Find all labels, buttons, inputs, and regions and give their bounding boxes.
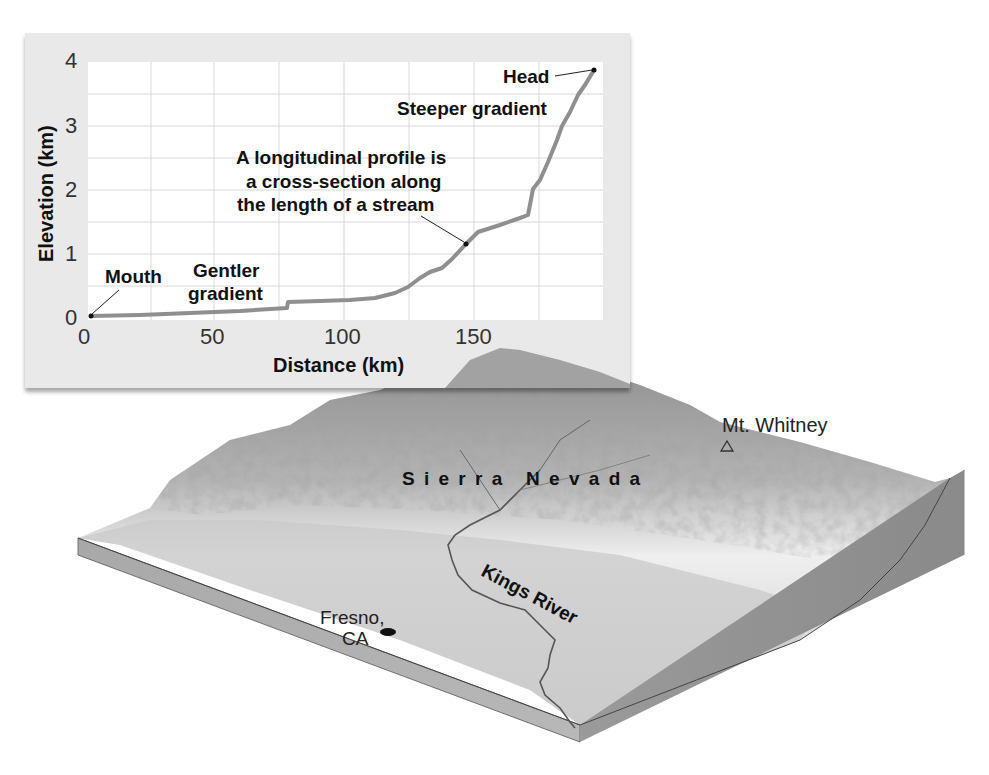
profile-point bbox=[464, 242, 469, 247]
x-tick-100: 100 bbox=[324, 324, 361, 349]
fresno-label-line1: Fresno, bbox=[320, 607, 384, 628]
x-tick-150: 150 bbox=[455, 324, 492, 349]
gentler-gradient-line1: Gentler bbox=[193, 260, 260, 281]
figure: Mt. Whitney S i e r r a N e v a d a King… bbox=[0, 0, 989, 775]
x-axis-label: Distance (km) bbox=[273, 354, 404, 376]
x-tick-50: 50 bbox=[200, 324, 224, 349]
mouth-label: Mouth bbox=[105, 266, 162, 287]
profile-chart: 4 3 2 1 0 0 50 100 150 Distance (km) Ele… bbox=[0, 0, 640, 400]
y-tick-4: 4 bbox=[65, 48, 77, 73]
mouth-point bbox=[89, 314, 94, 319]
mt-whitney-label: Mt. Whitney bbox=[722, 414, 828, 436]
gentler-gradient-line2: gradient bbox=[188, 283, 264, 304]
y-axis-label: Elevation (km) bbox=[35, 125, 57, 262]
sierra-nevada-label: S i e r r a N e v a d a bbox=[402, 468, 642, 489]
steeper-gradient-label: Steeper gradient bbox=[397, 98, 548, 119]
y-tick-0: 0 bbox=[65, 305, 77, 330]
head-point bbox=[592, 68, 597, 73]
y-tick-1: 1 bbox=[65, 241, 77, 266]
fresno-marker bbox=[380, 628, 396, 636]
y-tick-2: 2 bbox=[65, 177, 77, 202]
profile-note-line2: a cross-section along bbox=[246, 171, 441, 192]
y-tick-3: 3 bbox=[65, 113, 77, 138]
profile-note-line1: A longitudinal profile is bbox=[236, 147, 446, 168]
x-tick-0: 0 bbox=[78, 324, 90, 349]
fresno-label-line2: CA bbox=[342, 628, 369, 649]
profile-note-line3: the length of a stream bbox=[237, 194, 434, 215]
head-label: Head bbox=[503, 66, 549, 87]
